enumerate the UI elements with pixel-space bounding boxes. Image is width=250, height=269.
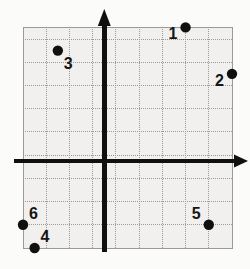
data-points bbox=[18, 22, 237, 253]
data-point-marker bbox=[53, 45, 63, 55]
point-label-6: 6 bbox=[29, 206, 38, 222]
point-label-5: 5 bbox=[192, 206, 201, 222]
point-label-4: 4 bbox=[41, 229, 50, 245]
y-axis-arrow-icon bbox=[98, 9, 111, 26]
data-point-marker bbox=[18, 220, 28, 230]
x-axis-arrow-icon bbox=[234, 154, 248, 167]
grid-and-axes-layer bbox=[0, 0, 250, 269]
axes bbox=[14, 9, 248, 252]
data-point-marker bbox=[29, 243, 39, 253]
coordinate-grid-figure: 123456 bbox=[0, 0, 250, 269]
point-label-1: 1 bbox=[169, 26, 178, 42]
data-point-marker bbox=[180, 22, 190, 32]
data-point-marker bbox=[227, 69, 237, 79]
data-point-marker bbox=[204, 220, 214, 230]
point-label-2: 2 bbox=[215, 73, 224, 89]
point-label-3: 3 bbox=[64, 56, 73, 72]
